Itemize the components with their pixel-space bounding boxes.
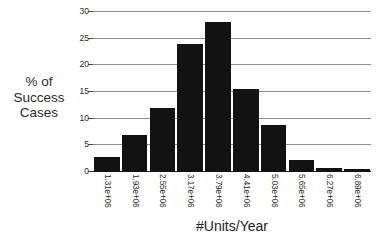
y-axis-tick-label: 0 — [84, 167, 89, 176]
bar — [122, 135, 148, 172]
bar-slot — [232, 12, 260, 172]
x-axis-tick-label: 6.89e+06 — [353, 174, 362, 208]
x-tick-slot: 5.03e+06 — [260, 174, 288, 218]
y-axis-tick-label: 20 — [80, 60, 89, 69]
x-tick-slot: 6.27e+06 — [315, 174, 343, 218]
bar — [289, 160, 315, 172]
bar-slot — [121, 12, 149, 172]
x-tick-slot: 5.65e+06 — [288, 174, 316, 218]
x-axis-tick-label: 6.27e+06 — [325, 174, 334, 208]
bar-slot — [176, 12, 204, 172]
x-tick-slot: 1.93e+06 — [121, 174, 149, 218]
bar — [150, 108, 176, 172]
bar-slot — [343, 12, 371, 172]
x-tick-slot: 3.17e+06 — [176, 174, 204, 218]
x-tick-slot: 6.89e+06 — [343, 174, 371, 218]
x-tick-slot: 2.55e+06 — [149, 174, 177, 218]
x-axis-tick-label: 5.65e+06 — [297, 174, 306, 208]
bar — [94, 157, 120, 172]
bar-slot — [260, 12, 288, 172]
plot-area: 051015202530 — [93, 12, 371, 172]
bar-slot — [93, 12, 121, 172]
y-axis-tick-label: 5 — [84, 140, 89, 149]
y-axis-tick-label: 15 — [80, 87, 89, 96]
bar-slot — [149, 12, 177, 172]
x-tick-slot: 4.41e+06 — [232, 174, 260, 218]
x-axis-tick-labels: 1.31e+061.93e+062.55e+063.17e+063.79e+06… — [93, 174, 371, 218]
x-axis-title: #Units/Year — [93, 218, 371, 235]
bar — [316, 168, 342, 172]
bar-slot — [288, 12, 316, 172]
x-axis-tick-label: 4.41e+06 — [242, 174, 251, 208]
bar-slot — [204, 12, 232, 172]
bar — [233, 89, 259, 172]
bar — [205, 22, 231, 172]
x-axis-tick-label: 1.31e+06 — [103, 174, 112, 208]
x-axis-tick-label: 3.17e+06 — [186, 174, 195, 208]
x-axis-tick-label: 1.93e+06 — [130, 174, 139, 208]
bar — [344, 169, 370, 172]
y-axis-title-line-3: Cases — [2, 105, 76, 121]
x-axis-tick-label: 2.55e+06 — [158, 174, 167, 208]
histogram-figure: % of Success Cases 051015202530 1.31e+06… — [0, 0, 390, 243]
x-axis-tick-label: 3.79e+06 — [214, 174, 223, 208]
bar — [177, 44, 203, 172]
bar-slot — [315, 12, 343, 172]
y-axis-title-line-1: % of — [2, 74, 76, 90]
bar-series — [93, 12, 371, 172]
y-axis-title-line-2: Success — [2, 90, 76, 106]
x-tick-slot: 1.31e+06 — [93, 174, 121, 218]
y-axis-tick-label: 30 — [80, 7, 89, 16]
x-axis-tick-label: 5.03e+06 — [269, 174, 278, 208]
y-axis-tick-label: 25 — [80, 33, 89, 42]
bar — [261, 125, 287, 172]
x-tick-slot: 3.79e+06 — [204, 174, 232, 218]
y-axis-title: % of Success Cases — [2, 74, 76, 121]
y-axis-tick-label: 10 — [80, 113, 89, 122]
